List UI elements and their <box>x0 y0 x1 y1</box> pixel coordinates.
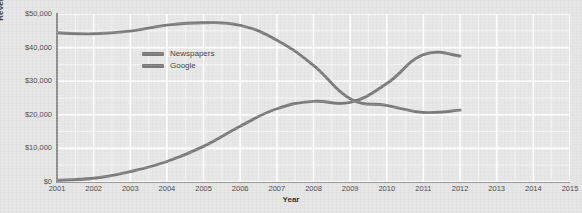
y-axis-line <box>56 13 58 183</box>
y-axis-tick-label: $50,000 <box>0 9 52 18</box>
legend-item: Newspapers <box>142 49 214 58</box>
plot-area <box>57 14 570 182</box>
legend-item: Google <box>142 61 214 70</box>
y-axis-tick-label: $40,000 <box>0 43 52 52</box>
legend-color-swatch <box>142 64 164 68</box>
x-axis-title: Year <box>0 195 582 204</box>
y-axis-tick-label: $30,000 <box>0 76 52 85</box>
chart-root: Revenues in millions $0$10,000$20,000$30… <box>0 0 582 213</box>
x-axis-tick-label: 2015 <box>548 184 582 193</box>
legend-label: Newspapers <box>170 49 214 58</box>
legend-color-swatch <box>142 52 164 56</box>
legend-label: Google <box>170 61 196 70</box>
y-axis-tick-label: $10,000 <box>0 143 52 152</box>
series-line <box>57 52 460 180</box>
chart-legend: NewspapersGoogle <box>142 49 214 70</box>
series-line <box>57 23 460 113</box>
series-lines <box>57 14 570 182</box>
y-axis-tick-label: $20,000 <box>0 110 52 119</box>
